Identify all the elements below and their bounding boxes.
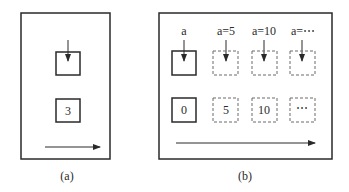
value-box-text: 10 <box>258 103 270 117</box>
value-box-text: 3 <box>65 104 71 118</box>
caption-b: (b) <box>238 169 252 183</box>
value-box-text: ⋯ <box>296 101 308 115</box>
column-label: a=10 <box>252 24 276 38</box>
column-label: a=⋯ <box>291 24 315 38</box>
value-box-text: 0 <box>181 103 187 117</box>
panel-a: 3 (a) <box>21 13 110 183</box>
panel-b: a 0 a=5 5 a=10 10 a=⋯ ⋯ (b) <box>159 13 332 183</box>
column-label: a <box>181 24 187 38</box>
value-box-text: 5 <box>223 103 229 117</box>
panel-a-frame <box>21 13 110 159</box>
caption-a: (a) <box>60 169 73 183</box>
column-label: a=5 <box>217 24 235 38</box>
diagram: 3 (a) a 0 a=5 5 a=10 10 a=⋯ ⋯ (b) <box>0 0 349 192</box>
